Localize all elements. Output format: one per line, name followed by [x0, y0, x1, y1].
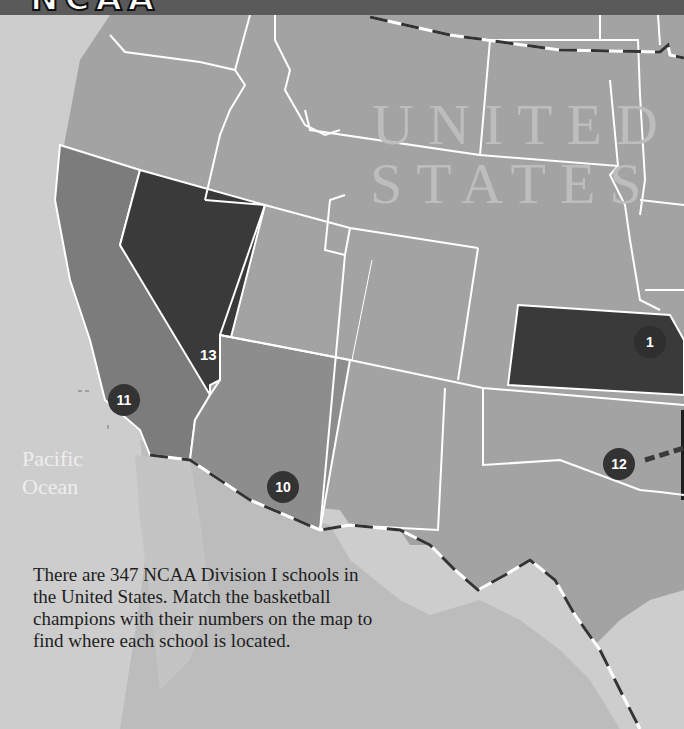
map-marker-11[interactable]: 11: [108, 384, 140, 416]
caption-text: There are 347 NCAA Division I schools in…: [33, 564, 373, 652]
map-marker-12[interactable]: 12: [603, 448, 635, 480]
label-pacific: Pacific: [22, 445, 83, 473]
instructions-caption: There are 347 NCAA Division I schools in…: [33, 564, 373, 652]
map-marker-10[interactable]: 10: [267, 471, 299, 503]
label-states: STATES: [370, 155, 656, 213]
label-united: UNITED: [372, 96, 672, 154]
map-marker-1[interactable]: 1: [633, 325, 667, 359]
label-mexico: MEXICO: [302, 668, 607, 724]
title-text: NCAA: [30, 0, 160, 15]
label-ocean: Ocean: [22, 473, 83, 501]
label-pacific-ocean: Pacific Ocean: [22, 445, 83, 501]
title-banner: NCAA: [0, 0, 684, 15]
map-marker-13[interactable]: 13: [200, 346, 217, 363]
